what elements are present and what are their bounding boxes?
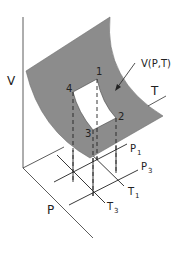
label-p3: P 3 [141,161,152,175]
svg-text:T: T [106,201,114,212]
t-axis-base [23,147,64,168]
svg-text:3: 3 [114,207,118,215]
svg-text:T: T [127,186,135,197]
corner-label-4: 4 [66,83,72,94]
surface-label: V(P,T) [141,58,171,69]
v-axis-label: V [7,74,16,88]
svg-text:P: P [130,143,136,154]
pvt-diagram: V P T V(P,T) 1 2 3 4 P 1 P 3 T 1 T 3 [0,0,177,254]
p-axis [23,168,93,238]
svg-text:P: P [141,161,147,172]
corner-label-3: 3 [85,128,91,139]
svg-text:3: 3 [148,167,152,175]
label-t1: T 1 [127,186,139,200]
t3-line [57,155,105,203]
corner-label-2: 2 [118,111,124,122]
svg-text:1: 1 [135,192,139,200]
label-p1: P 1 [130,143,141,157]
t-axis-label: T [150,84,159,98]
p-axis-label: P [47,203,54,217]
label-t3: T 3 [106,201,118,215]
corner-label-1: 1 [96,66,102,77]
svg-text:1: 1 [137,149,141,157]
